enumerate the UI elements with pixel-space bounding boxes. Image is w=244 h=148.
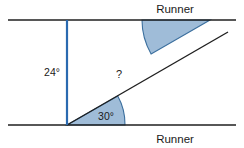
diagram-canvas: Runner Runner 24° 30° ?: [0, 0, 244, 148]
angle-unknown-label: ?: [116, 68, 122, 80]
bottom-line-label: Runner: [156, 133, 194, 145]
geometry-diagram: Runner Runner 24° 30° ?: [0, 0, 244, 148]
angle-30-label: 30°: [98, 110, 114, 122]
vertical-segment-label: 24°: [44, 66, 60, 78]
top-line-label: Runner: [156, 3, 194, 15]
